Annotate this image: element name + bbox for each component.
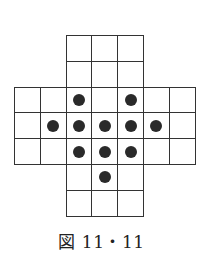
board-cell	[66, 190, 93, 217]
board-cell	[91, 190, 118, 217]
peg-icon	[73, 94, 85, 106]
peg-icon	[73, 146, 85, 158]
board-cell	[91, 61, 118, 88]
board-cell	[169, 87, 196, 114]
board-cell	[169, 138, 196, 165]
peg-icon	[125, 94, 137, 106]
board-cell	[66, 61, 93, 88]
board-cell	[14, 87, 41, 114]
board-cell	[40, 138, 67, 165]
board-cell	[14, 112, 41, 139]
board-cell	[40, 87, 67, 114]
peg-icon	[125, 146, 137, 158]
board-cell	[117, 190, 144, 217]
board-cell	[91, 35, 118, 62]
board-cell	[117, 164, 144, 191]
board-cell	[66, 164, 93, 191]
figure-caption: 図 11・11	[0, 228, 203, 253]
peg-icon	[47, 120, 59, 132]
board-cell	[117, 35, 144, 62]
peg-icon	[125, 120, 137, 132]
board-cell	[143, 138, 170, 165]
peg-icon	[99, 146, 111, 158]
board-cell	[66, 35, 93, 62]
board-cell	[117, 61, 144, 88]
board-cell	[143, 87, 170, 114]
board-cell	[14, 138, 41, 165]
peg-icon	[99, 120, 111, 132]
board-cell	[169, 112, 196, 139]
peg-solitaire-board	[0, 0, 203, 230]
peg-icon	[73, 120, 85, 132]
board-cell	[91, 87, 118, 114]
